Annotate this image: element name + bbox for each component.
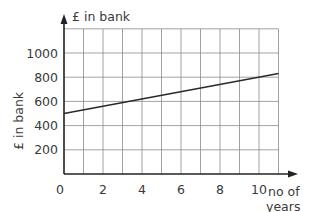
y-axis-title: £ in bank [11,91,26,150]
x-axis-title-line1: no of [268,184,300,199]
x-axis-title-line2: years [266,199,300,212]
series-line [64,74,279,114]
x-tick-label: 10 [251,182,267,197]
x-tick-label: 0 [56,182,64,197]
axes [61,14,299,178]
y-tick-label: 400 [34,118,58,133]
y-tick-label: 1000 [26,46,58,61]
x-tick-label: 4 [138,182,146,197]
data-series [64,74,279,114]
y-tick-label: 600 [34,94,58,109]
x-tick-label: 6 [177,182,185,197]
y-axis-top-label: £ in bank [72,9,131,24]
x-tick-label: 8 [216,182,224,197]
y-tick-label: 200 [34,142,58,157]
y-tick-label: 800 [34,70,58,85]
x-tick-label: 2 [99,182,107,197]
y-axis-arrow-icon [61,14,68,24]
line-chart: 02468102004006008001000 £ in bank £ in b… [0,0,309,212]
grid [64,29,279,174]
x-axis-arrow-icon [288,171,298,178]
